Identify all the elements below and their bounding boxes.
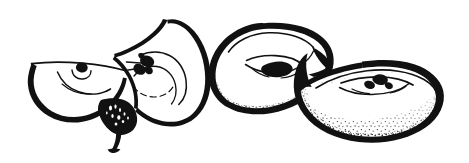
apple-illustration-canvas: Apple Slices Line Drawing bbox=[0, 0, 469, 163]
apple-illustration-svg: Apple Slices Line Drawing bbox=[0, 0, 469, 163]
